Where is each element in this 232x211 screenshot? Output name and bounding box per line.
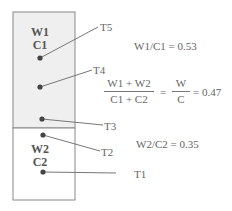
lower-region-label: W2 C2 <box>25 143 55 168</box>
equals-sign: = <box>160 87 166 98</box>
lower-ratio-equation: W2/C2 = 0.35 <box>136 139 199 150</box>
combined-value: = 0.47 <box>193 87 221 98</box>
c2-label: C2 <box>25 156 55 169</box>
upper-region-label: W1 C1 <box>25 26 55 51</box>
point-t4-dot <box>37 84 42 89</box>
point-label-t3: T3 <box>104 121 116 132</box>
point-label-t2: T2 <box>101 147 113 158</box>
point-t2-dot <box>40 132 45 137</box>
point-t5-dot <box>37 55 42 60</box>
point-label-t5: T5 <box>100 22 112 33</box>
point-t3-dot <box>39 116 44 121</box>
fraction-numerator: W1 + W2 <box>104 78 154 92</box>
fraction-denominator: C1 + C2 <box>104 92 154 105</box>
w-over-c-fraction: W C <box>172 78 190 105</box>
upper-ratio-equation: W1/C1 = 0.53 <box>134 41 197 52</box>
w1-label: W1 <box>25 26 55 39</box>
c1-label: C1 <box>25 39 55 52</box>
combined-fraction: W1 + W2 C1 + C2 <box>104 78 154 105</box>
point-label-t4: T4 <box>93 65 105 76</box>
point-t1-dot <box>40 169 45 174</box>
w-numerator: W <box>172 78 190 92</box>
w2-label: W2 <box>25 143 55 156</box>
point-label-t1: T1 <box>134 169 146 180</box>
c-denominator: C <box>172 92 190 105</box>
